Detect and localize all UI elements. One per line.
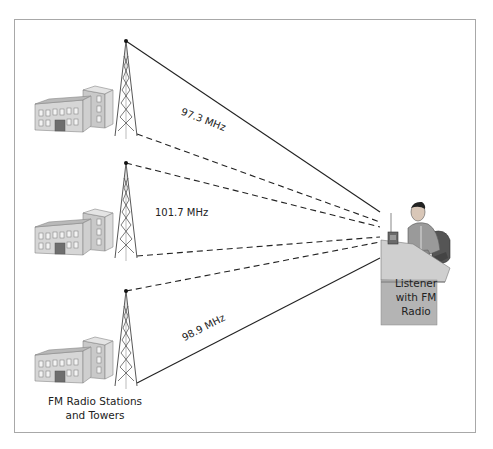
- listener-caption: Listener with FM Radio: [380, 276, 452, 318]
- signal-line-1017-bottom: [137, 237, 380, 256]
- radio-tower-icon: [115, 161, 137, 261]
- building-icon: [35, 337, 113, 383]
- building-icon: [35, 209, 113, 255]
- stations-caption: FM Radio Stations and Towers: [40, 394, 150, 422]
- signal-line-989-bottom: [137, 258, 380, 383]
- building-icon: [35, 86, 113, 132]
- frequency-label-1017: 101.7 MHz: [155, 207, 208, 218]
- signal-line-973-top: [126, 41, 380, 212]
- radio-tower-icon: [115, 289, 137, 389]
- signal-line-989-top: [126, 242, 380, 291]
- radio-tower-icon: [115, 39, 137, 139]
- fm-radio-diagram: [0, 0, 493, 449]
- radio-icon: [388, 213, 398, 244]
